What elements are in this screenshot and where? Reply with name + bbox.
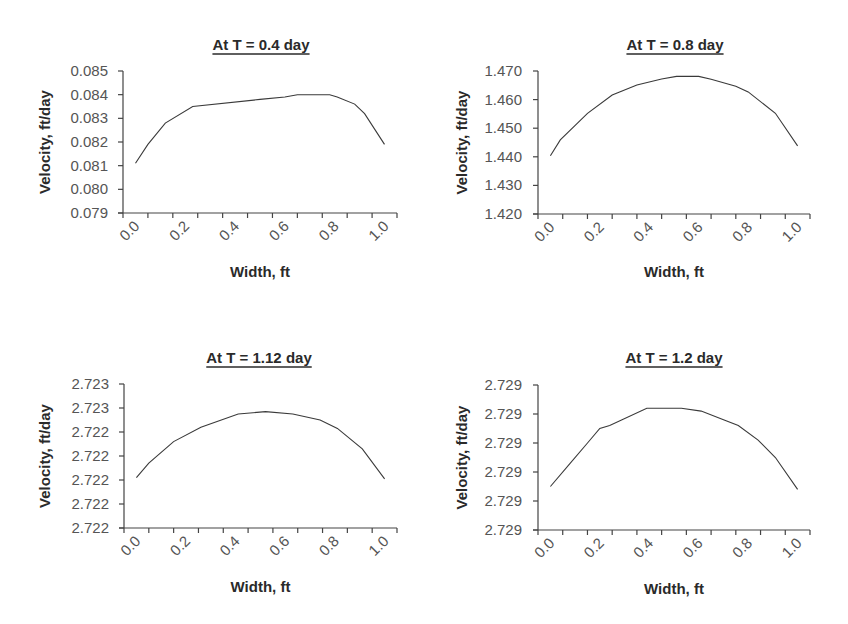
y-tick-label: 2.723 — [71, 399, 109, 416]
y-tick-label: 2.723 — [71, 375, 109, 392]
chart-title: At T = 1.12 day — [206, 349, 312, 366]
x-tick-label: 0.8 — [729, 534, 756, 561]
x-tick-label: 0.2 — [166, 217, 193, 244]
x-tick-label: 0.4 — [630, 534, 657, 561]
x-tick-label: 0.0 — [117, 532, 144, 559]
y-tick-label: 2.722 — [71, 495, 109, 512]
y-tick-label: 2.729 — [484, 521, 522, 538]
y-tick-label: 2.729 — [484, 405, 522, 422]
x-tick-label: 0.4 — [215, 217, 242, 244]
chart-title: At T = 0.8 day — [626, 36, 724, 53]
chart-panel-3: At T = 1.12 day2.7222.7222.7222.7222.722… — [36, 349, 397, 595]
y-tick-label: 1.460 — [484, 91, 522, 108]
x-tick-label: 1.0 — [778, 218, 805, 245]
x-tick-label: 0.6 — [679, 218, 706, 245]
x-tick-label: 1.0 — [365, 532, 392, 559]
y-axis-label: Velocity, ft/day — [36, 89, 53, 194]
y-tick-label: 1.430 — [484, 176, 522, 193]
y-tick-label: 1.470 — [484, 62, 522, 79]
x-tick-label: 0.0 — [531, 218, 558, 245]
x-axis-label: Width, ft — [230, 263, 290, 280]
y-tick-label: 2.722 — [71, 519, 109, 536]
x-tick-label: 0.2 — [580, 534, 607, 561]
x-tick-label: 0.8 — [315, 217, 342, 244]
x-tick-label: 0.2 — [580, 218, 607, 245]
y-tick-label: 0.085 — [70, 62, 108, 79]
y-tick-label: 1.420 — [484, 205, 522, 222]
x-tick-label: 0.8 — [315, 532, 342, 559]
series-line-1 — [550, 76, 797, 155]
chart-panel-2: At T = 0.8 day1.4201.4301.4401.4501.4601… — [453, 36, 810, 280]
chart-title: At T = 0.4 day — [212, 36, 310, 53]
x-axis-label: Width, ft — [231, 578, 291, 595]
x-tick-label: 0.6 — [679, 534, 706, 561]
y-tick-label: 2.722 — [71, 423, 109, 440]
x-tick-label: 0.4 — [630, 218, 657, 245]
series-line-1 — [136, 412, 384, 479]
series-line-1 — [550, 408, 797, 489]
y-tick-label: 0.081 — [70, 157, 108, 174]
y-tick-label: 2.729 — [484, 376, 522, 393]
figure-canvas: At T = 0.4 day0.0790.0800.0810.0820.0830… — [0, 0, 848, 624]
x-tick-label: 0.0 — [116, 217, 143, 244]
y-tick-label: 0.084 — [70, 86, 108, 103]
y-tick-label: 0.080 — [70, 180, 108, 197]
y-tick-label: 2.729 — [484, 434, 522, 451]
y-tick-label: 1.440 — [484, 148, 522, 165]
y-axis-label: Velocity, ft/day — [453, 405, 470, 510]
y-tick-label: 2.729 — [484, 463, 522, 480]
y-tick-label: 0.082 — [70, 133, 108, 150]
chart-title: At T = 1.2 day — [625, 349, 723, 366]
x-axis-label: Width, ft — [644, 580, 704, 597]
chart-panel-1: At T = 0.4 day0.0790.0800.0810.0820.0830… — [36, 36, 397, 280]
x-tick-label: 1.0 — [365, 217, 392, 244]
y-axis-label: Velocity, ft/day — [36, 403, 53, 508]
x-tick-label: 0.8 — [729, 218, 756, 245]
chart-panel-4: At T = 1.2 day2.7292.7292.7292.7292.7292… — [453, 349, 810, 597]
y-tick-label: 1.450 — [484, 119, 522, 136]
y-axis-label: Velocity, ft/day — [453, 90, 470, 195]
x-tick-label: 0.6 — [265, 217, 292, 244]
series-line-1 — [136, 95, 385, 164]
x-tick-label: 0.4 — [216, 532, 243, 559]
y-tick-label: 0.083 — [70, 109, 108, 126]
x-axis-label: Width, ft — [644, 263, 704, 280]
x-tick-label: 0.2 — [166, 532, 193, 559]
x-tick-label: 1.0 — [778, 534, 805, 561]
y-tick-label: 2.722 — [71, 471, 109, 488]
y-tick-label: 2.722 — [71, 447, 109, 464]
y-tick-label: 2.729 — [484, 492, 522, 509]
y-tick-label: 0.079 — [70, 204, 108, 221]
x-tick-label: 0.0 — [531, 534, 558, 561]
x-tick-label: 0.6 — [266, 532, 293, 559]
